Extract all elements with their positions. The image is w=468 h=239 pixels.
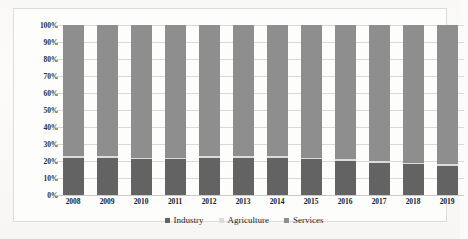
x-axis-tick-label: 2017 [362, 197, 396, 211]
bar-segment-services[interactable] [403, 25, 424, 163]
bar-segment-services[interactable] [335, 25, 356, 159]
gridline [56, 195, 464, 196]
bar-segment-services[interactable] [267, 25, 288, 156]
bar-segment-industry[interactable] [165, 159, 186, 195]
bar-segment-industry[interactable] [403, 164, 424, 195]
x-axis-tick-label: 2008 [56, 197, 90, 211]
bar-slot [90, 25, 124, 195]
bar-segment-industry[interactable] [267, 158, 288, 195]
x-axis-tick-label: 2009 [90, 197, 124, 211]
legend-item-industry[interactable]: Industry [165, 215, 204, 225]
y-axis-tick-label: 20% [28, 157, 58, 166]
bar-segment-industry[interactable] [233, 158, 254, 195]
bar-segment-services[interactable] [233, 25, 254, 156]
y-axis-tick-label: 30% [28, 140, 58, 149]
y-axis-tick-label: 50% [28, 106, 58, 115]
y-axis-tick-label: 60% [28, 89, 58, 98]
x-axis-tick-label: 2010 [124, 197, 158, 211]
bar-segment-industry[interactable] [63, 158, 84, 195]
legend-label: Agriculture [228, 215, 269, 225]
y-axis-tick-label: 100% [28, 21, 58, 30]
legend-item-agriculture[interactable]: Agriculture [219, 215, 269, 225]
x-axis: 2008200920102011201220132014201520162017… [56, 197, 464, 211]
stacked-bar[interactable] [335, 25, 356, 195]
y-axis-tick-label: 90% [28, 38, 58, 47]
plot-area [56, 25, 464, 195]
bar-slot [260, 25, 294, 195]
stacked-bar[interactable] [97, 25, 118, 195]
bar-segment-industry[interactable] [369, 163, 390, 195]
stacked-bar[interactable] [267, 25, 288, 195]
bar-slot [294, 25, 328, 195]
y-axis: 100%90%80%70%60%50%40%30%20%10%0% [28, 25, 58, 195]
bar-segment-services[interactable] [199, 25, 220, 156]
x-axis-tick-label: 2016 [328, 197, 362, 211]
bar-slot [192, 25, 226, 195]
y-axis-tick-label: 80% [28, 55, 58, 64]
bar-segment-industry[interactable] [335, 161, 356, 195]
x-axis-tick-label: 2019 [430, 197, 464, 211]
stacked-bar[interactable] [165, 25, 186, 195]
legend-swatch-icon [284, 218, 289, 223]
bar-segment-services[interactable] [437, 25, 458, 164]
y-axis-tick-label: 70% [28, 72, 58, 81]
legend-swatch-icon [219, 218, 224, 223]
x-axis-tick-label: 2012 [192, 197, 226, 211]
bar-segment-industry[interactable] [301, 159, 322, 195]
stacked-bar[interactable] [63, 25, 84, 195]
bar-segment-services[interactable] [301, 25, 322, 158]
x-axis-tick-label: 2014 [260, 197, 294, 211]
stacked-bar[interactable] [301, 25, 322, 195]
legend-label: Industry [174, 215, 204, 225]
stacked-bar[interactable] [233, 25, 254, 195]
bar-slot [226, 25, 260, 195]
stacked-bar[interactable] [199, 25, 220, 195]
x-axis-tick-label: 2013 [226, 197, 260, 211]
bar-segment-services[interactable] [63, 25, 84, 156]
stacked-bar[interactable] [131, 25, 152, 195]
y-axis-tick-label: 0% [28, 191, 58, 200]
bar-slot [328, 25, 362, 195]
bar-segment-services[interactable] [369, 25, 390, 161]
bar-slot [362, 25, 396, 195]
y-axis-tick-label: 40% [28, 123, 58, 132]
bar-segment-industry[interactable] [199, 158, 220, 195]
chart-legend: IndustryAgricultureServices [14, 215, 468, 225]
legend-label: Services [293, 215, 324, 225]
x-axis-tick-label: 2015 [294, 197, 328, 211]
bar-segment-industry[interactable] [97, 158, 118, 195]
bar-series-container [56, 25, 464, 195]
legend-swatch-icon [165, 218, 170, 223]
stacked-bar[interactable] [437, 25, 458, 195]
stacked-bar[interactable] [369, 25, 390, 195]
x-axis-tick-label: 2011 [158, 197, 192, 211]
y-axis-tick-label: 10% [28, 174, 58, 183]
bar-segment-services[interactable] [165, 25, 186, 158]
bar-slot [124, 25, 158, 195]
bar-segment-services[interactable] [97, 25, 118, 156]
bar-segment-services[interactable] [131, 25, 152, 158]
legend-item-services[interactable]: Services [284, 215, 324, 225]
stacked-bar[interactable] [403, 25, 424, 195]
bar-segment-industry[interactable] [131, 159, 152, 195]
bar-slot [430, 25, 464, 195]
bar-segment-industry[interactable] [437, 166, 458, 195]
chart-frame: 100%90%80%70%60%50%40%30%20%10%0% 200820… [13, 8, 447, 222]
bar-slot [396, 25, 430, 195]
bar-slot [158, 25, 192, 195]
x-axis-tick-label: 2018 [396, 197, 430, 211]
bar-slot [56, 25, 90, 195]
